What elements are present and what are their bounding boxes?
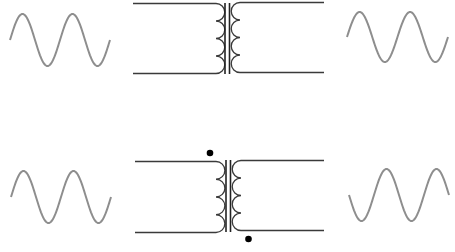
- transformer-diagram: [0, 0, 455, 252]
- top-input-sine-wave: [10, 14, 110, 66]
- bottom-secondary-coil: [232, 161, 241, 231]
- top-primary-winding: [133, 4, 225, 74]
- top-secondary-coil: [231, 3, 240, 73]
- bottom-primary-coil: [216, 162, 225, 233]
- secondary-polarity-dot: [245, 236, 252, 243]
- top-row: [10, 3, 448, 75]
- top-primary-coil: [216, 4, 225, 74]
- top-output-sine-wave: [347, 12, 448, 62]
- top-secondary-winding: [231, 3, 324, 73]
- primary-polarity-dot: [207, 150, 214, 157]
- top-transformer: [133, 3, 324, 75]
- bottom-primary-winding: [135, 162, 225, 233]
- bottom-row: [11, 150, 449, 243]
- bottom-output-sine-wave: [349, 169, 449, 221]
- bottom-input-sine-wave: [11, 171, 111, 223]
- bottom-secondary-winding: [232, 161, 324, 231]
- bottom-transformer: [135, 150, 324, 243]
